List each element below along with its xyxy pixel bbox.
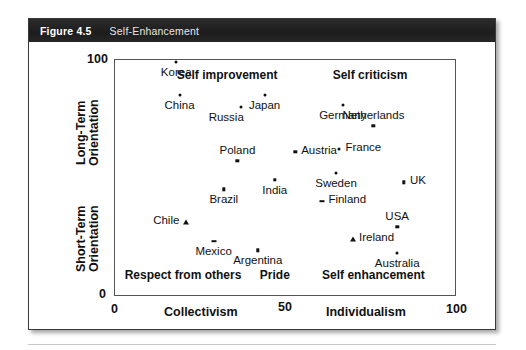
figure-header: Figure 4.5 Self-Enhancement (29, 19, 495, 42)
data-point-marker (350, 236, 356, 241)
quadrant-label: Self improvement (177, 68, 278, 82)
data-point-label: Russia (209, 111, 244, 123)
data-point-label: Sweden (315, 177, 357, 189)
data-point-label: Mexico (195, 245, 231, 257)
data-point-label: USA (385, 210, 409, 222)
data-point-marker (222, 188, 225, 191)
data-point-marker (263, 94, 266, 97)
data-point-label: Ireland (359, 231, 394, 243)
data-point-marker (293, 150, 296, 153)
data-point-marker (372, 124, 375, 127)
x-axis-label-individualism: Individualism (326, 305, 406, 319)
data-point-label: Brazil (209, 193, 238, 205)
x-axis-tick-0: 0 (111, 302, 118, 316)
x-axis-tick-50: 50 (278, 300, 292, 314)
data-point-label: UK (410, 174, 426, 186)
data-point-label: Poland (219, 144, 255, 156)
data-point-marker (175, 61, 178, 64)
data-point-marker (211, 240, 216, 242)
data-point-marker (256, 249, 259, 252)
data-point-marker (273, 178, 276, 181)
data-point-marker (338, 148, 341, 151)
data-point-label: Finland (328, 193, 366, 205)
quadrant-label: Self criticism (333, 68, 408, 82)
data-point-label: Netherlands (342, 109, 404, 121)
data-point-marker (335, 171, 338, 174)
data-point-label: Chile (153, 214, 179, 226)
figure-box: Figure 4.5 Self-Enhancement 100 0 0 50 1… (28, 18, 496, 330)
data-point-label: India (262, 184, 287, 196)
data-point-label: Japan (249, 99, 280, 111)
x-axis-tick-100: 100 (446, 302, 467, 316)
quadrant-label: Respect from others (125, 268, 242, 282)
data-point-marker (183, 220, 189, 225)
data-point-label: Argentina (233, 254, 282, 266)
x-axis-label-collectivism: Collectivism (164, 305, 238, 319)
data-point-label: Austria (301, 144, 337, 156)
data-point-label: France (345, 141, 381, 153)
y-axis-label-short-term: Short-Term Orientation (75, 187, 101, 291)
y-axis-label-long-term: Long-Term Orientation (75, 81, 101, 185)
data-point-marker (395, 225, 398, 228)
data-point-label: Australia (375, 257, 420, 269)
figure-number: Figure 4.5 (40, 25, 92, 37)
data-point-marker (402, 180, 405, 183)
data-point-marker (341, 103, 344, 106)
y-axis-tick-100: 100 (87, 52, 108, 66)
data-point-marker (396, 251, 399, 254)
data-point-marker (236, 159, 239, 162)
data-point-marker (320, 200, 325, 202)
data-point-marker (178, 94, 181, 97)
plot-area: KoreaChinaJapanRussiaGermanyNetherlandsP… (114, 59, 456, 296)
page-rule (28, 344, 496, 345)
quadrant-label: Pride (260, 268, 290, 282)
data-point-label: China (165, 99, 195, 111)
data-point-marker (239, 106, 242, 109)
quadrant-label: Self enhancement (322, 268, 425, 282)
figure-title: Self-Enhancement (110, 25, 200, 37)
